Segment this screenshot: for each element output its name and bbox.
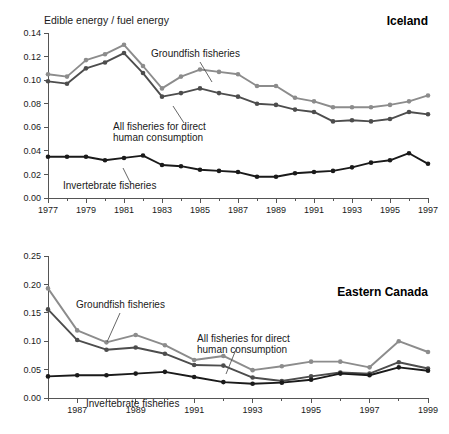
data-point-marker (274, 84, 279, 89)
data-point-marker (103, 158, 108, 163)
y-tick-label: 0.05 (23, 365, 41, 375)
data-point-marker (217, 169, 222, 174)
data-point-marker (122, 51, 127, 56)
x-tick-label: 1989 (266, 205, 286, 215)
data-point-marker (331, 105, 336, 110)
y-tick-label: 0.10 (23, 75, 41, 85)
x-tick-label: 1983 (152, 205, 172, 215)
panel-title: Iceland (387, 14, 428, 28)
data-point-marker (274, 103, 279, 108)
data-point-marker (426, 162, 431, 167)
data-point-marker (104, 373, 109, 378)
data-point-marker (46, 79, 51, 84)
data-point-marker (103, 60, 108, 65)
chart-panel-iceland: 0.000.020.040.060.080.100.120.1419771979… (0, 0, 449, 228)
data-point-marker (141, 64, 146, 69)
y-tick-label: 0.02 (23, 170, 41, 180)
data-point-marker (293, 96, 298, 101)
data-point-marker (369, 105, 374, 110)
x-tick-label: 1985 (190, 205, 210, 215)
data-point-marker (309, 378, 314, 383)
eastern-canada-plot: 0.000.050.100.150.200.251987198919911993… (0, 228, 449, 434)
data-point-marker (221, 380, 226, 385)
data-point-marker (426, 93, 431, 98)
data-point-marker (293, 171, 298, 176)
data-point-marker (280, 364, 285, 369)
data-point-marker (407, 110, 412, 115)
data-point-marker (250, 382, 255, 387)
y-tick-label: 0.04 (23, 146, 41, 156)
y-tick-label: 0.10 (23, 336, 41, 346)
data-point-marker (250, 368, 255, 373)
data-point-marker (179, 164, 184, 169)
data-point-marker (396, 360, 401, 365)
data-point-marker (46, 307, 51, 312)
iceland-plot: 0.000.020.040.060.080.100.120.1419771979… (0, 0, 449, 228)
data-point-marker (46, 154, 51, 159)
annotation-label: All fisheries for direct (197, 333, 290, 344)
x-tick-label: 1995 (301, 405, 321, 415)
data-point-marker (255, 84, 260, 89)
data-point-marker (407, 151, 412, 156)
data-point-marker (160, 163, 165, 168)
data-point-marker (221, 363, 226, 368)
data-point-marker (331, 119, 336, 124)
x-tick-label: 1977 (38, 205, 58, 215)
annotation-leader-line (107, 313, 120, 342)
y-tick-label: 0.00 (23, 393, 41, 403)
data-point-marker (179, 91, 184, 96)
data-point-marker (236, 170, 241, 175)
data-point-marker (293, 107, 298, 112)
data-point-marker (46, 374, 51, 379)
data-point-marker (369, 119, 374, 124)
x-tick-label: 1987 (67, 405, 87, 415)
annotation-label: Groundfish fisheries (151, 48, 240, 59)
data-point-marker (163, 351, 168, 356)
y-tick-label: 0.08 (23, 99, 41, 109)
x-tick-label: 1993 (342, 205, 362, 215)
data-point-marker (141, 153, 146, 158)
data-point-marker (312, 99, 317, 104)
data-point-marker (255, 174, 260, 179)
panel-title: Eastern Canada (337, 285, 428, 299)
data-point-marker (104, 340, 109, 345)
data-point-marker (179, 74, 184, 79)
data-point-marker (46, 286, 51, 291)
annotation-label-line2: human consumption (197, 344, 287, 355)
data-point-marker (133, 345, 138, 350)
data-point-marker (426, 350, 431, 355)
data-point-marker (163, 370, 168, 375)
data-point-marker (133, 333, 138, 338)
chart-panel-eastern-canada: 0.000.050.100.150.200.251987198919911993… (0, 228, 449, 434)
data-point-marker (407, 99, 412, 104)
data-point-marker (75, 373, 80, 378)
annotation-label: Groundfish fisheries (76, 299, 165, 310)
data-point-marker (338, 371, 343, 376)
data-point-marker (103, 52, 108, 57)
data-point-marker (141, 71, 146, 76)
data-point-marker (350, 105, 355, 110)
data-point-marker (133, 371, 138, 376)
data-point-marker (217, 70, 222, 75)
data-point-marker (331, 169, 336, 174)
x-tick-label: 1997 (418, 205, 438, 215)
data-point-marker (192, 363, 197, 368)
data-point-marker (122, 156, 127, 161)
x-tick-label: 1981 (114, 205, 134, 215)
data-point-marker (350, 165, 355, 170)
annotation-leader-line (200, 62, 212, 82)
data-point-marker (396, 365, 401, 370)
data-point-marker (255, 101, 260, 106)
data-point-marker (122, 42, 127, 47)
data-point-marker (312, 110, 317, 115)
data-point-marker (160, 94, 165, 99)
y-tick-label: 0.00 (23, 193, 41, 203)
data-point-marker (250, 375, 255, 380)
x-tick-label: 1991 (184, 405, 204, 415)
data-point-marker (217, 91, 222, 96)
data-point-marker (46, 72, 51, 77)
data-point-marker (426, 112, 431, 117)
data-point-marker (312, 170, 317, 175)
x-tick-label: 1995 (380, 205, 400, 215)
data-point-marker (396, 339, 401, 344)
